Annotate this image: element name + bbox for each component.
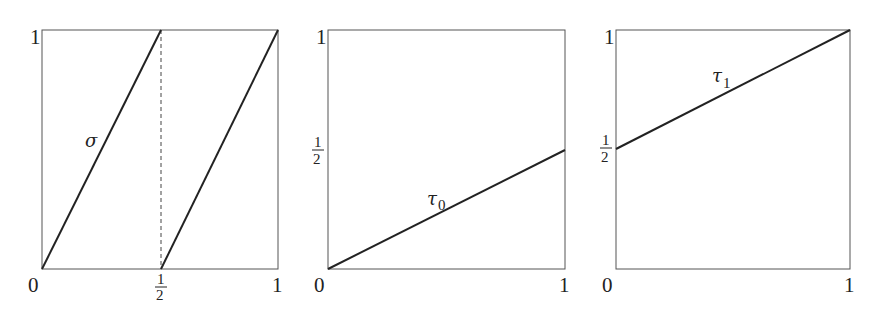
tau0-subscript: 0 [438, 197, 446, 213]
sigma-right-branch [161, 30, 278, 269]
y-tick-one: 1 [604, 25, 615, 49]
y-tick-half-num: 1 [602, 132, 610, 148]
sigma-label: σ [85, 130, 98, 151]
diagram-canvas: 1 0 1 1 2 σ 1 1 2 0 1 τ 0 1 1 2 0 1 τ 1 [0, 0, 872, 320]
x-tick-zero: 0 [28, 273, 39, 297]
x-tick-zero: 0 [602, 273, 613, 297]
panel-frame [42, 30, 278, 269]
y-tick-one: 1 [316, 25, 327, 49]
tau1-line [616, 30, 850, 149]
y-tick-half-den: 2 [313, 151, 321, 167]
y-tick-one: 1 [30, 25, 41, 49]
sigma-left-branch [42, 30, 161, 269]
panel-frame [616, 30, 850, 269]
x-tick-one: 1 [272, 273, 283, 297]
x-tick-zero: 0 [314, 273, 325, 297]
panel-tau1: 1 1 2 0 1 τ 1 [600, 25, 855, 297]
tau1-label: τ [712, 65, 723, 86]
x-tick-one: 1 [559, 273, 570, 297]
panel-frame [328, 30, 565, 269]
x-tick-one: 1 [844, 273, 855, 297]
panel-sigma: 1 0 1 1 2 σ [28, 25, 283, 303]
y-tick-half-den: 2 [601, 149, 609, 165]
tau1-subscript: 1 [723, 75, 731, 91]
tau0-label: τ [427, 188, 438, 209]
y-tick-half-num: 1 [314, 134, 322, 150]
tau0-line [328, 150, 565, 269]
panel-tau0: 1 1 2 0 1 τ 0 [312, 25, 570, 297]
x-tick-half-num: 1 [157, 271, 165, 287]
x-tick-half-den: 2 [156, 287, 164, 303]
